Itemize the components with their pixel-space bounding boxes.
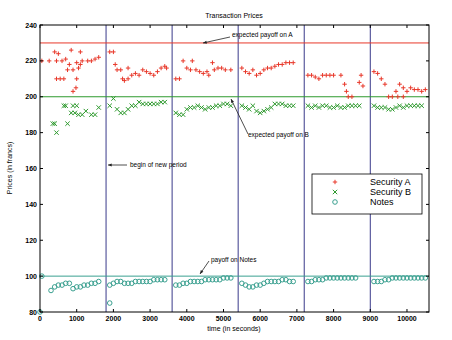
plus-marker-icon <box>71 68 75 72</box>
transaction-prices-chart: Transaction Prices 010002000300040005000… <box>0 0 452 340</box>
annotation-label: payoff on Notes <box>211 256 257 264</box>
plot-area <box>38 25 429 314</box>
y-tick-label: 80 <box>29 309 37 316</box>
plus-marker-icon <box>229 68 233 72</box>
plus-marker-icon <box>181 59 185 63</box>
plus-marker-icon <box>210 60 214 64</box>
x-tick-label: 4000 <box>179 315 195 322</box>
plus-marker-icon <box>291 60 295 64</box>
plus-marker-icon <box>119 68 123 72</box>
plus-marker-icon <box>113 62 117 66</box>
x-tick-label: 10000 <box>397 315 417 322</box>
x-marker-icon <box>163 100 167 104</box>
x-tick-label: 3000 <box>142 315 158 322</box>
plus-marker-icon <box>405 89 409 93</box>
annotation-label: begin of new period <box>130 161 187 169</box>
legend-item-label: Notes <box>370 197 394 207</box>
legend: Security ASecurity BNotes <box>312 174 422 214</box>
y-tick-label: 160 <box>25 165 37 172</box>
y-tick-label: 220 <box>25 57 37 64</box>
x-tick-label: 9000 <box>362 315 378 322</box>
axes: 0100020003000400050006000700080009000100… <box>25 22 429 323</box>
x-marker-icon <box>419 104 423 108</box>
plus-marker-icon <box>71 89 75 93</box>
plus-marker-icon <box>126 66 130 70</box>
y-tick-label: 120 <box>25 237 37 244</box>
x-marker-icon <box>357 104 361 108</box>
plus-marker-icon <box>47 59 51 63</box>
plus-marker-icon <box>74 86 78 90</box>
plus-marker-icon <box>190 59 194 63</box>
plus-marker-icon <box>390 95 394 99</box>
plus-marker-icon <box>383 82 387 86</box>
series-security-b <box>51 96 424 134</box>
plus-marker-icon <box>240 66 244 70</box>
x-marker-icon <box>65 121 69 125</box>
x-tick-label: 6000 <box>252 315 268 322</box>
plus-marker-icon <box>74 77 78 81</box>
y-tick-label: 180 <box>25 129 37 136</box>
annotation-arrow-line <box>203 37 230 43</box>
annotation-arrow-line <box>231 99 248 134</box>
plus-marker-icon <box>342 82 346 86</box>
x-axis-label: time (in seconds) <box>207 325 260 333</box>
x-tick-label: 0 <box>38 315 42 322</box>
plus-marker-icon <box>69 48 73 52</box>
x-marker-icon <box>74 104 78 108</box>
plus-marker-icon <box>177 77 181 81</box>
plus-marker-icon <box>359 73 363 77</box>
series-notes <box>38 274 428 314</box>
y-tick-label: 240 <box>25 22 37 29</box>
plus-marker-icon <box>155 69 159 73</box>
arrow-head-icon <box>200 270 203 274</box>
plus-marker-icon <box>350 95 354 99</box>
y-tick-label: 140 <box>25 201 37 208</box>
plus-marker-icon <box>78 50 82 54</box>
x-tick-label: 7000 <box>289 315 305 322</box>
y-tick-label: 200 <box>25 93 37 100</box>
x-tick-label: 2000 <box>106 315 122 322</box>
legend-item-label: Security B <box>370 187 411 197</box>
chart-title: Transaction Prices <box>205 12 263 19</box>
x-marker-icon <box>108 104 112 108</box>
x-marker-icon <box>93 112 97 116</box>
x-marker-icon <box>291 104 295 108</box>
plus-marker-icon <box>67 62 71 66</box>
x-marker-icon <box>181 112 185 116</box>
plus-marker-icon <box>251 68 255 72</box>
arrow-head-icon <box>108 163 112 166</box>
plus-marker-icon <box>62 77 66 81</box>
plus-marker-icon <box>111 50 115 54</box>
x-marker-icon <box>251 104 255 108</box>
plus-marker-icon <box>54 59 58 63</box>
plus-marker-icon <box>396 95 400 99</box>
annotation-label: expected payoff on A <box>232 31 293 39</box>
legend-item-label: Security A <box>370 177 411 187</box>
plus-marker-icon <box>357 80 361 84</box>
plus-marker-icon <box>65 68 69 72</box>
x-marker-icon <box>84 109 88 113</box>
circle-marker-icon <box>49 288 54 293</box>
x-tick-label: 5000 <box>216 315 232 322</box>
x-tick-label: 1000 <box>69 315 85 322</box>
x-marker-icon <box>97 105 101 109</box>
plus-marker-icon <box>401 95 405 99</box>
plus-marker-icon <box>394 89 398 93</box>
annotation-label: expected payoff on B <box>248 131 309 139</box>
plus-marker-icon <box>401 86 405 90</box>
plus-marker-icon <box>344 89 348 93</box>
y-axis-label: Prices (in francs) <box>6 142 14 195</box>
x-marker-icon <box>54 130 58 134</box>
plus-marker-icon <box>361 84 365 88</box>
x-tick-label: 8000 <box>326 315 342 322</box>
series-security-a <box>40 48 428 99</box>
circle-marker-icon <box>107 301 112 306</box>
plus-marker-icon <box>379 77 383 81</box>
plus-marker-icon <box>397 82 401 86</box>
y-tick-label: 100 <box>25 273 37 280</box>
plus-marker-icon <box>331 73 335 77</box>
plus-marker-icon <box>339 73 343 77</box>
